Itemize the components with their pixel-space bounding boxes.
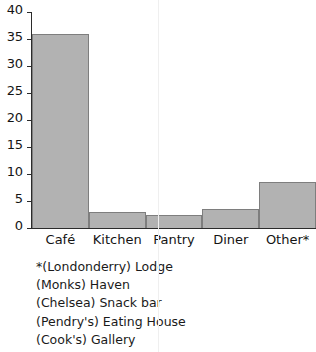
bar-pantry [146,215,203,229]
footnote-line: *(Londonderry) Lodge [36,258,306,276]
x-label-caf: Café [32,231,89,251]
bar-other [259,182,316,228]
y-tick-label: 15 [7,138,23,151]
y-tick-label: 0 [15,219,23,232]
bar-caf [32,34,89,228]
footnote-list: *(Londonderry) Lodge(Monks) Haven(Chelse… [36,258,306,349]
footnote-line: (Monks) Haven [36,276,306,294]
footnote-line: (Chelsea) Snack bar [36,294,306,312]
y-tick-label: 40 [7,3,23,16]
x-axis-line [31,228,316,229]
footnote-line: (Cook's) Gallery [36,331,306,349]
footnote-line: (Pendry's) Eating House [36,313,306,331]
bars-layer [32,12,316,228]
bar-cell [32,12,89,228]
y-tick-label: 20 [7,111,23,124]
x-label-pantry: Pantry [146,231,203,251]
x-axis-category-labels: CaféKitchenPantryDinerOther* [32,231,316,251]
bar-diner [202,209,259,228]
y-axis: 0510152025303540 [0,0,32,352]
x-label-diner: Diner [202,231,259,251]
y-tick-label: 35 [7,30,23,43]
y-tick-label: 5 [15,192,23,205]
bar-cell [89,12,146,228]
scan-artifact-line [158,0,159,352]
bar-kitchen [89,212,146,228]
bar-cell [146,12,203,228]
x-label-other: Other* [259,231,316,251]
y-tick-label: 10 [7,165,23,178]
bar-cell [202,12,259,228]
x-label-kitchen: Kitchen [89,231,146,251]
bar-cell [259,12,316,228]
y-tick-label: 30 [7,57,23,70]
bar-chart-figure: 0510152025303540 CaféKitchenPantryDinerO… [0,0,316,352]
y-tick-label: 25 [7,84,23,97]
